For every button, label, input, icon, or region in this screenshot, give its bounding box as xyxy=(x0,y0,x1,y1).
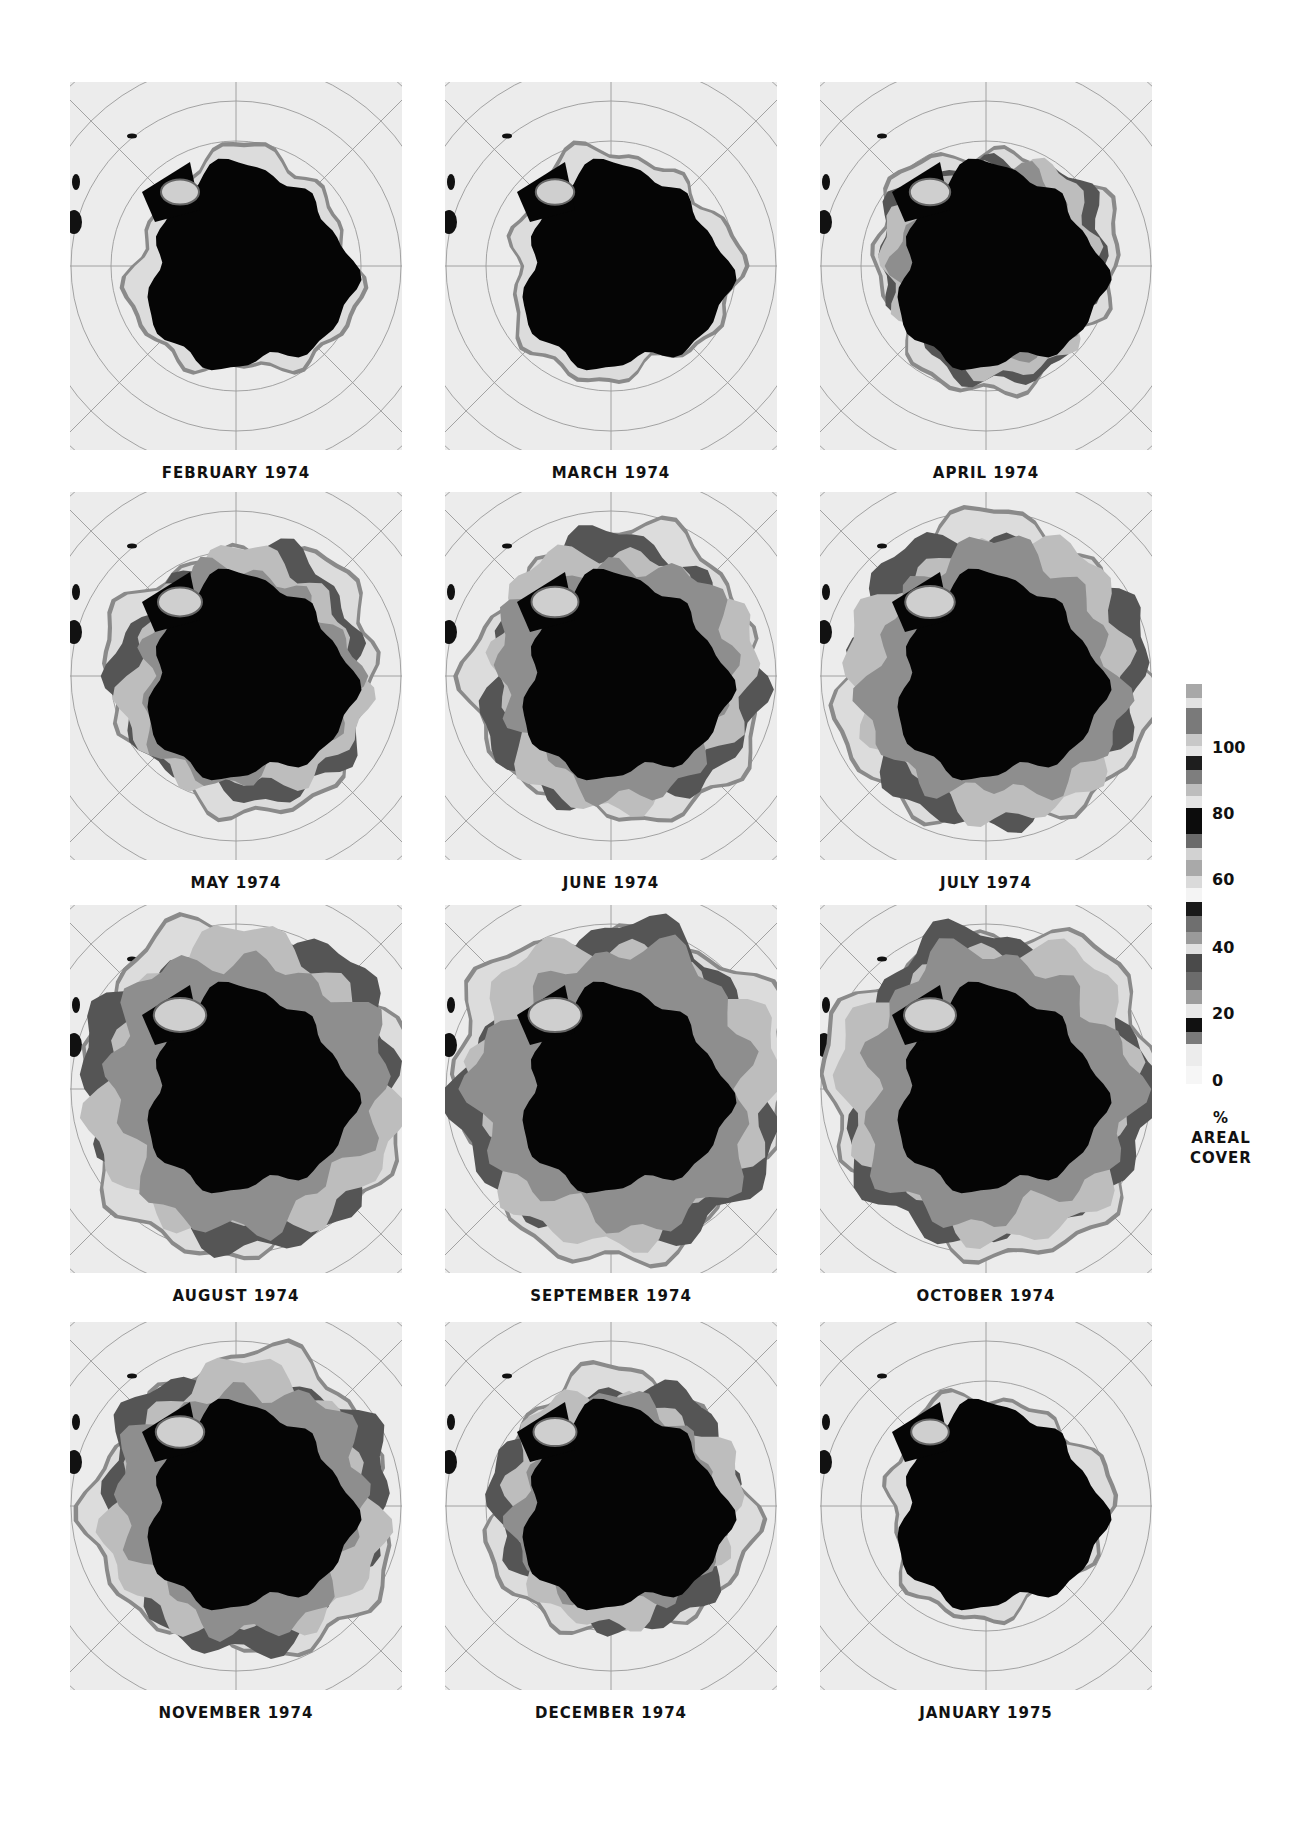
map-caption: DECEMBER 1974 xyxy=(445,1704,777,1722)
antarctic-map xyxy=(445,905,777,1273)
colorbar-title-cover: COVER xyxy=(1176,1148,1266,1168)
map-panel xyxy=(820,82,1152,450)
map-panel xyxy=(820,1322,1152,1690)
map-caption: MARCH 1974 xyxy=(445,464,777,482)
colorbar-band xyxy=(1186,932,1202,944)
colorbar-tick-60: 60 xyxy=(1212,870,1234,889)
colorbar-band xyxy=(1186,834,1202,848)
colorbar-band xyxy=(1186,888,1202,902)
colorbar-tick-80: 80 xyxy=(1212,804,1234,823)
map-caption: OCTOBER 1974 xyxy=(820,1287,1152,1305)
antarctic-map xyxy=(820,905,1152,1273)
antarctic-map xyxy=(445,492,777,860)
antarctic-map xyxy=(445,82,777,450)
colorbar-band xyxy=(1186,902,1202,916)
map-caption: SEPTEMBER 1974 xyxy=(445,1287,777,1305)
map-panel xyxy=(445,82,777,450)
colorbar-title-percent: % xyxy=(1176,1108,1266,1128)
map-caption: MAY 1974 xyxy=(70,874,402,892)
colorbar-band xyxy=(1186,796,1202,808)
colorbar-band xyxy=(1186,746,1202,756)
map-caption: APRIL 1974 xyxy=(820,464,1152,482)
antarctic-map xyxy=(70,1322,402,1690)
map-caption: NOVEMBER 1974 xyxy=(70,1704,402,1722)
colorbar-band xyxy=(1186,734,1202,746)
antarctic-map xyxy=(70,905,402,1273)
colorbar-band xyxy=(1186,1066,1202,1084)
colorbar-band xyxy=(1186,944,1202,954)
map-panel xyxy=(70,905,402,1273)
colorbar-band xyxy=(1186,876,1202,888)
map-panel xyxy=(820,492,1152,860)
colorbar-band xyxy=(1186,972,1202,990)
map-caption: AUGUST 1974 xyxy=(70,1287,402,1305)
colorbar-band xyxy=(1186,1044,1202,1066)
colorbar-band xyxy=(1186,708,1202,734)
colorbar-band xyxy=(1186,1018,1202,1032)
antarctic-map xyxy=(820,82,1152,450)
map-panel xyxy=(820,905,1152,1273)
antarctic-map xyxy=(70,82,402,450)
map-caption: JANUARY 1975 xyxy=(820,1704,1152,1722)
colorbar-band xyxy=(1186,784,1202,796)
colorbar-title-areal: AREAL xyxy=(1176,1128,1266,1148)
colorbar xyxy=(1186,684,1202,1104)
map-caption: JUNE 1974 xyxy=(445,874,777,892)
colorbar-band xyxy=(1186,684,1202,698)
colorbar-band xyxy=(1186,860,1202,876)
colorbar-title: % AREAL COVER xyxy=(1176,1108,1266,1168)
antarctic-map xyxy=(70,492,402,860)
colorbar-band xyxy=(1186,698,1202,708)
map-caption: FEBRUARY 1974 xyxy=(70,464,402,482)
colorbar-band xyxy=(1186,808,1202,834)
colorbar-tick-40: 40 xyxy=(1212,938,1234,957)
colorbar-band xyxy=(1186,954,1202,972)
colorbar-band xyxy=(1186,990,1202,1004)
colorbar-band xyxy=(1186,770,1202,784)
map-panel xyxy=(70,492,402,860)
antarctic-map xyxy=(445,1322,777,1690)
map-panel xyxy=(445,905,777,1273)
colorbar-band xyxy=(1186,1004,1202,1018)
colorbar-band xyxy=(1186,848,1202,860)
map-panel xyxy=(445,492,777,860)
colorbar-tick-100: 100 xyxy=(1212,738,1245,757)
map-panel xyxy=(70,82,402,450)
map-caption: JULY 1974 xyxy=(820,874,1152,892)
colorbar-tick-20: 20 xyxy=(1212,1004,1234,1023)
colorbar-band xyxy=(1186,756,1202,770)
antarctic-map xyxy=(820,492,1152,860)
colorbar-band xyxy=(1186,916,1202,932)
map-panel xyxy=(445,1322,777,1690)
colorbar-band xyxy=(1186,1032,1202,1044)
antarctic-map xyxy=(820,1322,1152,1690)
colorbar-tick-0: 0 xyxy=(1212,1071,1223,1090)
map-panel xyxy=(70,1322,402,1690)
